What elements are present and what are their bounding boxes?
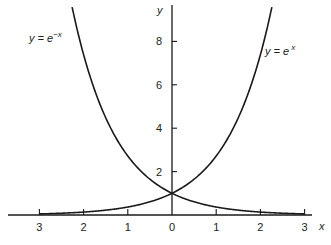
y-axis-label: y	[156, 4, 164, 16]
y-tick-label: 6	[156, 79, 162, 91]
x-tick-label: 2	[257, 221, 263, 233]
x-tick-label: 2	[81, 221, 87, 233]
label-e-neg-x-base: y = e	[28, 32, 53, 44]
x-tick-label: 3	[302, 221, 308, 233]
x-tick-label: 3	[36, 221, 42, 233]
x-axis-label: x	[318, 220, 325, 232]
x-tick-label: 1	[213, 221, 219, 233]
label-e-neg-x: y = e−x	[28, 30, 63, 44]
y-tick-label: 4	[156, 122, 162, 134]
label-e-x-base: y = e	[264, 45, 289, 57]
exponential-chart: 3210123 2468 x y y = e−x y = ex	[0, 0, 331, 245]
label-e-x-exp: x	[290, 43, 296, 52]
x-tick-label: 0	[169, 221, 175, 233]
y-ticks: 2468	[156, 35, 177, 177]
x-tick-label: 1	[125, 221, 131, 233]
y-tick-label: 8	[156, 35, 162, 47]
y-tick-label: 2	[156, 166, 162, 178]
label-e-neg-x-exp: −x	[53, 30, 63, 39]
label-e-x: y = ex	[264, 43, 296, 57]
